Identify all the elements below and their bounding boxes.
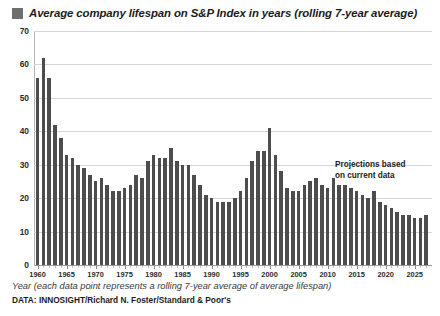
x-tick-mark-2010	[328, 266, 329, 269]
x-tick-mark-minor-1982	[165, 266, 166, 268]
x-tick-label-1995: 1995	[232, 270, 248, 279]
x-tick-mark-minor-1967	[78, 266, 79, 268]
x-tick-label-2020: 2020	[377, 270, 393, 279]
bar-1993	[227, 202, 231, 266]
bar-1960	[36, 78, 40, 265]
x-tick-label-1985: 1985	[174, 270, 190, 279]
x-tick-label-2015: 2015	[348, 270, 364, 279]
legend-swatch-icon	[12, 8, 23, 19]
bar-1964	[59, 138, 63, 265]
bar-1965	[65, 155, 69, 265]
x-tick-mark-minor-2007	[310, 266, 311, 268]
bar-1995	[239, 191, 243, 265]
x-tick-label-2005: 2005	[290, 270, 306, 279]
x-tick-mark-minor-2022	[397, 266, 398, 268]
x-tick-mark-minor-1991	[217, 266, 218, 268]
bar-1970	[94, 181, 98, 265]
x-tick-mark-minor-1973	[113, 266, 114, 268]
bar-1963	[53, 125, 57, 265]
projection-annotation-line1: Projections based	[335, 160, 431, 171]
bar-1990	[210, 198, 214, 265]
x-tick-mark-minor-2024	[409, 266, 410, 268]
x-tick-mark-minor-1964	[61, 266, 62, 268]
bar-2008	[314, 178, 318, 265]
bar-1967	[76, 165, 80, 265]
bar-1991	[216, 202, 220, 266]
y-tick-label-20: 20	[20, 193, 29, 203]
bar-1999	[262, 151, 266, 265]
x-tick-mark-minor-1993	[229, 266, 230, 268]
projection-annotation-line2: on current data	[335, 171, 431, 182]
x-tick-mark-minor-1983	[171, 266, 172, 268]
x-tick-mark-minor-1994	[235, 266, 236, 268]
x-tick-mark-minor-1969	[90, 266, 91, 268]
x-tick-mark-minor-1986	[188, 266, 189, 268]
bar-1989	[204, 195, 208, 265]
plot-area: 010203040506070	[34, 31, 432, 265]
bar-2023	[401, 215, 405, 265]
x-tick-mark-1985	[183, 266, 184, 269]
bar-1962	[47, 78, 51, 265]
bar-1974	[117, 191, 121, 265]
bar-2016	[361, 195, 365, 265]
x-tick-mark-minor-1987	[194, 266, 195, 268]
source-attribution: DATA: INNOSIGHT/Richard N. Foster/Standa…	[12, 295, 231, 305]
x-tick-label-2000: 2000	[261, 270, 277, 279]
x-tick-mark-minor-1992	[223, 266, 224, 268]
y-tick-label-70: 70	[20, 26, 29, 36]
x-tick-mark-minor-2016	[362, 266, 363, 268]
y-tick-label-60: 60	[20, 59, 29, 69]
x-tick-mark-minor-2011	[333, 266, 334, 268]
bar-1966	[71, 158, 75, 265]
x-tick-mark-minor-2021	[391, 266, 392, 268]
x-tick-label-1965: 1965	[58, 270, 74, 279]
x-tick-mark-minor-1972	[107, 266, 108, 268]
x-tick-mark-minor-1984	[177, 266, 178, 268]
x-tick-mark-1990	[212, 266, 213, 269]
bar-1982	[163, 158, 167, 265]
x-tick-mark-minor-1962	[49, 266, 50, 268]
bar-1998	[256, 151, 260, 265]
bar-1988	[198, 185, 202, 265]
x-tick-mark-minor-1963	[55, 266, 56, 268]
x-tick-mark-minor-1997	[252, 266, 253, 268]
y-tick-label-50: 50	[20, 93, 29, 103]
bar-1980	[152, 155, 156, 265]
x-tick-label-1960: 1960	[29, 270, 45, 279]
x-tick-mark-minor-2004	[293, 266, 294, 268]
bar-1977	[134, 175, 138, 265]
bar-1981	[158, 158, 162, 265]
bar-2012	[337, 185, 341, 265]
x-tick-mark-minor-2001	[275, 266, 276, 268]
bar-1986	[187, 165, 191, 265]
x-tick-mark-minor-1971	[101, 266, 102, 268]
y-tick-label-40: 40	[20, 126, 29, 136]
x-tick-mark-minor-1988	[200, 266, 201, 268]
x-tick-label-2010: 2010	[319, 270, 335, 279]
x-tick-label-1990: 1990	[203, 270, 219, 279]
x-tick-mark-1975	[125, 266, 126, 269]
x-tick-mark-minor-1966	[72, 266, 73, 268]
bar-1976	[129, 185, 133, 265]
chart-title-row: Average company lifespan on S&P Index in…	[12, 7, 417, 19]
x-tick-mark-minor-2019	[380, 266, 381, 268]
bar-2011	[332, 178, 336, 265]
bar-1979	[146, 161, 150, 265]
bar-2006	[303, 185, 307, 265]
bar-1972	[105, 185, 109, 265]
bar-1973	[111, 191, 115, 265]
x-tick-mark-2015	[357, 266, 358, 269]
bar-1997	[250, 161, 254, 265]
bar-1969	[88, 175, 92, 265]
x-tick-mark-minor-2017	[368, 266, 369, 268]
bar-2001	[274, 155, 278, 265]
x-tick-mark-2025	[415, 266, 416, 269]
x-tick-mark-minor-1961	[43, 266, 44, 268]
x-tick-mark-minor-2009	[322, 266, 323, 268]
bar-2025	[413, 218, 417, 265]
bar-2007	[308, 181, 312, 265]
x-tick-mark-2005	[299, 266, 300, 269]
x-tick-mark-minor-2006	[304, 266, 305, 268]
x-tick-mark-minor-2027	[426, 266, 427, 268]
x-tick-mark-minor-1998	[258, 266, 259, 268]
